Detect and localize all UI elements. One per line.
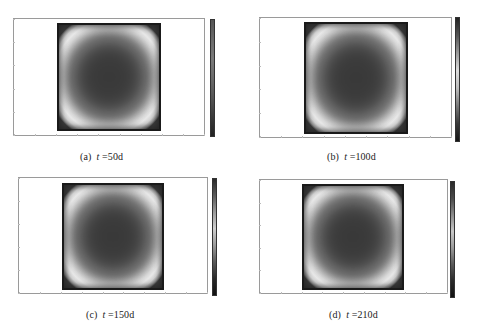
x-tick <box>186 292 187 294</box>
y-tick <box>18 293 20 294</box>
x-tick <box>302 136 303 138</box>
heatmap-d <box>302 184 404 290</box>
y-tick <box>259 203 261 204</box>
x-tick <box>387 136 388 138</box>
y-tick <box>259 180 261 181</box>
y-tick <box>259 18 261 19</box>
y-tick <box>259 89 261 90</box>
y-tick <box>18 178 20 179</box>
x-tick <box>98 134 99 136</box>
y-tick <box>259 42 261 43</box>
y-tick <box>18 201 20 202</box>
x-tick <box>385 292 386 294</box>
heatmap-a <box>57 23 161 131</box>
x-tick <box>61 292 62 294</box>
y-tick <box>13 112 15 113</box>
y-tick <box>259 270 261 271</box>
caption-b: (b) t =100d <box>327 151 376 162</box>
x-tick <box>120 134 121 136</box>
y-tick <box>13 65 15 66</box>
x-tick <box>165 292 166 294</box>
x-tick <box>141 134 142 136</box>
x-tick <box>409 136 410 138</box>
heatmap-b <box>304 22 408 134</box>
x-tick <box>451 136 452 138</box>
y-tick <box>13 89 15 90</box>
x-tick <box>77 134 78 136</box>
y-tick <box>259 293 261 294</box>
x-tick <box>144 292 145 294</box>
x-tick <box>281 136 282 138</box>
x-tick <box>207 292 208 294</box>
caption-c: (c) t =150d <box>86 309 134 320</box>
y-tick <box>259 248 261 249</box>
x-tick <box>183 134 184 136</box>
y-tick <box>13 19 15 20</box>
y-tick <box>18 247 20 248</box>
colorbar-d <box>450 181 455 298</box>
x-tick <box>322 292 323 294</box>
x-tick <box>56 134 57 136</box>
x-tick <box>366 136 367 138</box>
x-tick <box>82 292 83 294</box>
x-tick <box>345 136 346 138</box>
x-tick <box>162 134 163 136</box>
x-tick <box>364 292 365 294</box>
x-tick <box>204 134 205 136</box>
y-tick <box>259 137 261 138</box>
x-tick <box>405 292 406 294</box>
x-tick <box>40 292 41 294</box>
caption-a: (a) t =50d <box>80 151 123 162</box>
colorbar-c <box>212 178 217 296</box>
y-tick <box>13 135 15 136</box>
x-tick <box>302 292 303 294</box>
x-tick <box>281 292 282 294</box>
y-tick <box>259 225 261 226</box>
x-tick <box>324 136 325 138</box>
y-tick <box>18 270 20 271</box>
x-tick <box>123 292 124 294</box>
y-tick <box>13 42 15 43</box>
colorbar-a <box>210 19 215 137</box>
heatmap-c <box>62 183 164 290</box>
x-tick <box>430 136 431 138</box>
caption-d: (d) t =210d <box>329 309 378 320</box>
colorbar-b <box>455 17 460 142</box>
y-tick <box>18 224 20 225</box>
x-tick <box>103 292 104 294</box>
y-tick <box>259 66 261 67</box>
x-tick <box>35 134 36 136</box>
x-tick <box>447 292 448 294</box>
x-tick <box>426 292 427 294</box>
x-tick <box>343 292 344 294</box>
y-tick <box>259 113 261 114</box>
